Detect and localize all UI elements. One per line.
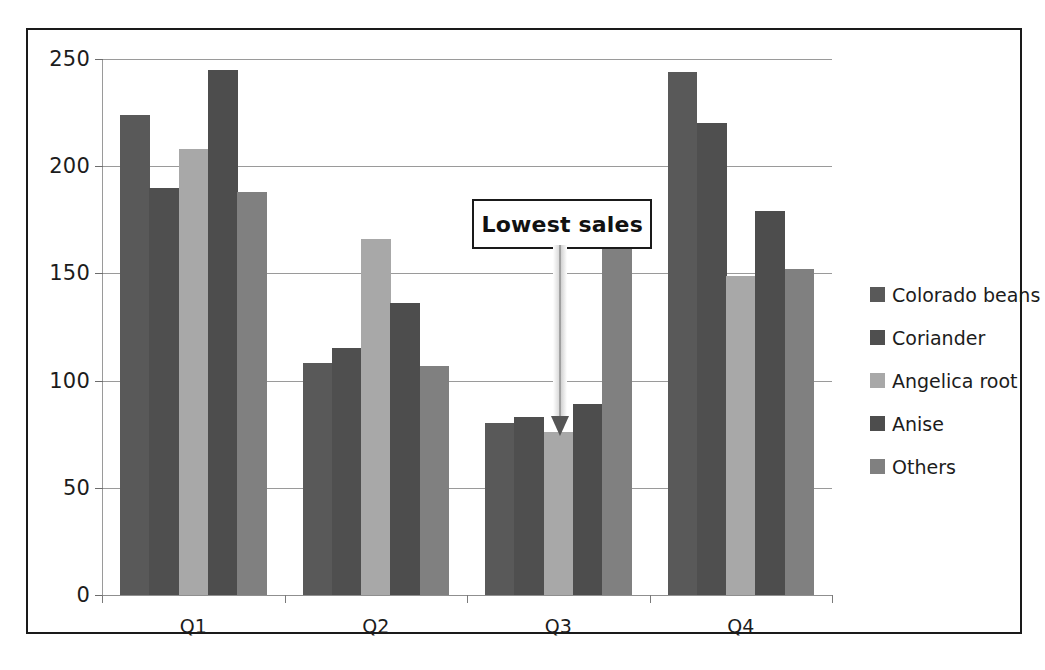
bar-q4-anise[interactable] [755,211,785,595]
y-tick-label-0: 0 [76,583,90,607]
y-tick-mark-250 [95,59,103,60]
legend-label: Angelica root [892,370,1018,392]
legend-swatch-icon [870,373,885,388]
legend-label: Coriander [892,327,985,349]
legend-swatch-icon [870,330,885,345]
bar-q3-angelica-root[interactable] [544,432,574,595]
bar-q1-colorado-beans[interactable] [120,115,150,595]
bar-q2-coriander[interactable] [332,348,362,595]
y-tick-mark-150 [95,273,103,274]
x-tick-mark-q4 [832,595,833,603]
y-tick-mark-200 [95,166,103,167]
bar-q2-colorado-beans[interactable] [303,363,333,595]
x-category-label-q1: Q1 [180,615,207,637]
bar-q3-coriander[interactable] [514,417,544,595]
bar-q3-anise[interactable] [573,404,603,595]
y-tick-label-50: 50 [63,476,90,500]
x-tick-mark-origin [102,595,103,603]
bar-group-q2 [303,59,449,595]
bar-q1-angelica-root[interactable] [179,149,209,595]
y-tick-label-200: 200 [49,154,90,178]
annotation-lowest-sales: Lowest sales [472,199,648,245]
legend-swatch-icon [870,416,885,431]
legend-swatch-icon [870,459,885,474]
y-tick-mark-100 [95,381,103,382]
value-axis-line [102,59,103,595]
bar-q2-others[interactable] [420,366,450,595]
bar-q1-others[interactable] [237,192,267,595]
legend-item-others[interactable]: Others [870,445,1045,488]
y-tick-label-250: 250 [49,47,90,71]
annotation-label: Lowest sales [472,199,652,249]
plot-area: 050100150200250 Q1Q2Q3Q4 Lowest sales [102,59,832,595]
y-tick-label-100: 100 [49,369,90,393]
y-tick-label-150: 150 [49,261,90,285]
bar-q3-others[interactable] [602,243,632,595]
legend-swatch-icon [870,287,885,302]
chart-figure: 050100150200250 Q1Q2Q3Q4 Lowest sales Co… [26,28,1022,634]
legend-item-anise[interactable]: Anise [870,402,1045,445]
bar-q4-others[interactable] [785,269,815,595]
bar-q2-angelica-root[interactable] [361,239,391,595]
bar-q2-anise[interactable] [390,303,420,595]
bar-q3-colorado-beans[interactable] [485,423,515,595]
legend-label: Colorado beans [892,284,1040,306]
bar-q1-coriander[interactable] [149,188,179,595]
x-category-label-q4: Q4 [727,615,754,637]
x-tick-mark-q2 [467,595,468,603]
x-category-label-q2: Q2 [362,615,389,637]
x-category-label-q3: Q3 [545,615,572,637]
chart-legend: Colorado beansCorianderAngelica rootAnis… [870,273,1045,488]
x-tick-mark-q1 [285,595,286,603]
y-tick-mark-50 [95,488,103,489]
legend-label: Anise [892,413,944,435]
legend-label: Others [892,456,956,478]
bar-q1-anise[interactable] [208,70,238,595]
bar-q4-angelica-root[interactable] [726,276,756,595]
legend-item-colorado-beans[interactable]: Colorado beans [870,273,1045,316]
legend-item-angelica-root[interactable]: Angelica root [870,359,1045,402]
bar-group-q1 [120,59,266,595]
legend-item-coriander[interactable]: Coriander [870,316,1045,359]
bar-q4-colorado-beans[interactable] [668,72,698,595]
bar-q4-coriander[interactable] [697,123,727,595]
annotation-arrow-icon [546,245,574,436]
x-tick-mark-q3 [650,595,651,603]
bar-group-q4 [668,59,814,595]
